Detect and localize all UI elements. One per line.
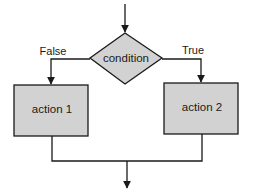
action-1-node: action 1 [14, 85, 88, 136]
action-1-label: action 1 [32, 103, 72, 115]
true-branch-arrow [162, 59, 201, 82]
flowchart: condition False True action 1 action 2 [0, 0, 253, 195]
merge-line [52, 134, 202, 161]
decision-label: condition [103, 52, 149, 64]
false-label: False [40, 45, 67, 57]
action-2-label: action 2 [182, 101, 222, 113]
action-2-node: action 2 [164, 83, 238, 134]
true-label: True [182, 44, 204, 56]
false-branch-arrow [51, 59, 90, 84]
decision-node: condition [90, 33, 162, 84]
